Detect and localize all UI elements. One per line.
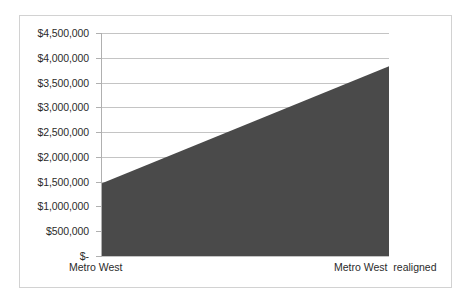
x-axis-label-left: Metro West — [69, 261, 122, 273]
x-axis-label-right: Metro West realigned — [334, 261, 437, 273]
gridline — [102, 256, 389, 257]
area-polygon — [102, 66, 389, 256]
y-axis-tick-label: $2,500,000 — [37, 126, 89, 138]
y-axis-tick-label: $1,500,000 — [37, 176, 89, 188]
y-axis-tick-label: $500,000 — [46, 225, 89, 237]
chart-frame: $4,500,000 $4,000,000 $3,500,000 $3,000,… — [19, 15, 452, 288]
area-series — [102, 33, 389, 256]
plot-area — [102, 33, 389, 256]
y-axis-tick-label: $2,000,000 — [37, 151, 89, 163]
y-axis-tick-label: $4,500,000 — [37, 27, 89, 39]
y-axis-tick-label: $3,000,000 — [37, 101, 89, 113]
y-axis-tick-label: $1,000,000 — [37, 200, 89, 212]
y-axis-tick-label: $3,500,000 — [37, 77, 89, 89]
y-axis-tick-label: $4,000,000 — [37, 52, 89, 64]
